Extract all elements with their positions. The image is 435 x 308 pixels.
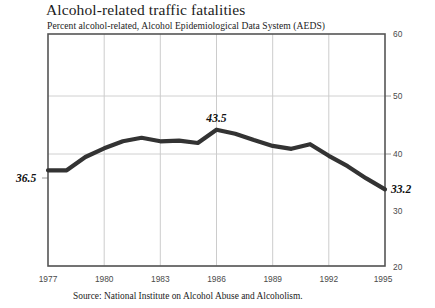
end-value-callout: 33.2 [390,183,411,196]
y-tick-50: 50 [393,91,403,101]
x-tick-1977: 1977 [39,274,58,284]
x-tick-1992: 1992 [319,274,338,284]
x-tick-1989: 1989 [263,274,282,284]
x-tick-1986: 1986 [207,274,226,284]
y-tick-60: 60 [393,29,403,39]
x-tick-1983: 1983 [151,274,170,284]
x-tick-1980: 1980 [95,274,114,284]
x-tick-1995: 1995 [374,274,393,284]
y-tick-20: 20 [393,262,403,272]
y-tick-30: 30 [393,206,403,216]
line-chart-plot: 60 50 40 30 20 1977 1980 1983 1986 1989 … [0,0,435,308]
y-tick-40: 40 [393,149,403,159]
start-value-callout: 36.5 [15,172,36,185]
peak-value-callout: 43.5 [205,112,226,125]
chart-figure: Alcohol-related traffic fatalities Perce… [0,0,435,308]
source-note: Source: National Institute on Alcohol Ab… [73,291,303,301]
